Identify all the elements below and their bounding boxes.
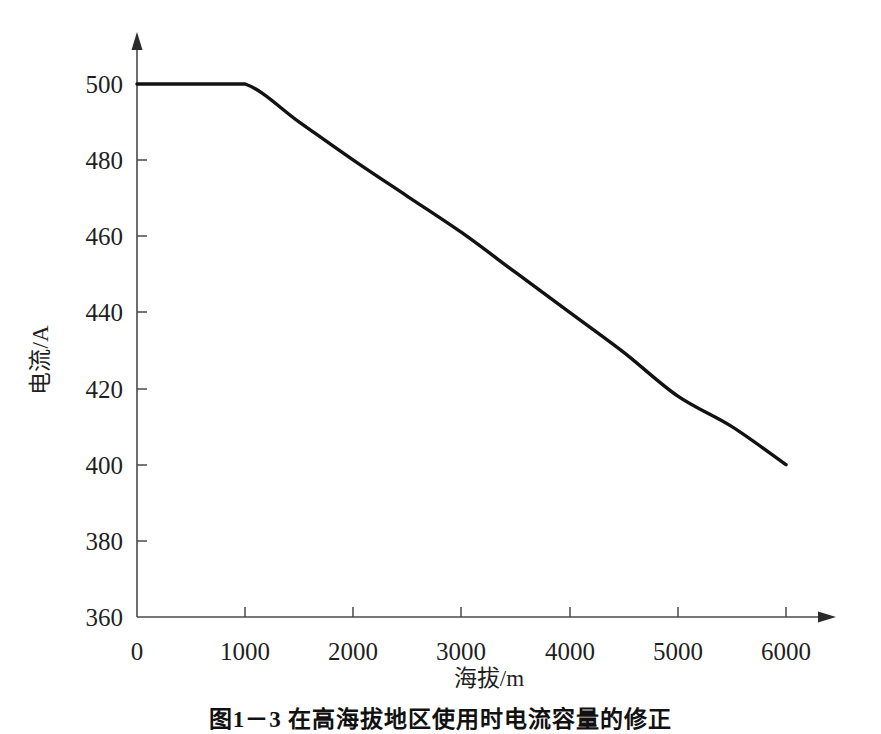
derating-curve xyxy=(137,84,786,465)
y-tick-label-480: 480 xyxy=(86,147,124,174)
x-axis-ticks xyxy=(245,607,786,617)
x-axis-title: 海拔/m xyxy=(454,666,524,691)
x-axis-tick-labels: 0 1000 2000 3000 4000 5000 6000 xyxy=(131,638,811,665)
y-tick-label-500: 500 xyxy=(86,71,124,98)
x-tick-label-2000: 2000 xyxy=(328,638,378,665)
x-tick-label-1000: 1000 xyxy=(220,638,270,665)
x-tick-label-6000: 6000 xyxy=(761,638,811,665)
altitude-current-derating-chart: 500 480 460 440 420 400 380 360 0 1000 2… xyxy=(0,0,881,700)
x-tick-label-5000: 5000 xyxy=(653,638,703,665)
x-tick-label-3000: 3000 xyxy=(436,638,486,665)
y-tick-label-400: 400 xyxy=(86,452,124,479)
y-tick-label-420: 420 xyxy=(86,376,124,403)
figure-caption: 图1－3 在高海拔地区使用时电流容量的修正 xyxy=(0,700,881,734)
y-axis-arrow-icon xyxy=(132,32,143,50)
y-axis-title: 电流/A xyxy=(28,325,53,394)
y-tick-label-380: 380 xyxy=(86,528,124,555)
x-axis-arrow-icon xyxy=(818,612,836,623)
y-tick-label-440: 440 xyxy=(86,299,124,326)
y-tick-label-360: 360 xyxy=(86,604,124,631)
x-tick-label-4000: 4000 xyxy=(545,638,595,665)
x-tick-label-0: 0 xyxy=(131,638,144,665)
y-tick-label-460: 460 xyxy=(86,223,124,250)
y-axis-ticks xyxy=(137,84,147,541)
y-axis-tick-labels: 500 480 460 440 420 400 380 360 xyxy=(86,71,124,631)
